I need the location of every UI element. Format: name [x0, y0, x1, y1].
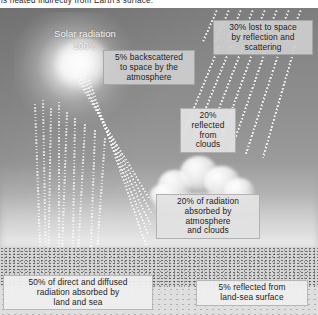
- callout-reflected-from-clouds: 20% reflected from clouds: [180, 108, 236, 153]
- callout-absorbed-by-atmosphere: 20% of radiation absorbed by atmosphere …: [156, 194, 260, 239]
- callout-line: clouds: [184, 140, 232, 150]
- callout-line: land-sea surface: [200, 293, 304, 303]
- callout-backscattered-to-space: 5% backscattered to space by the atmosph…: [103, 50, 195, 85]
- callout-absorbed-by-land-and-sea: 50% of direct and diffused radiation abs…: [3, 275, 153, 310]
- solar-radiation-title: Solar radiation: [54, 28, 116, 39]
- callout-reflected-from-land-sea-surface: 5% reflected from land-sea surface: [196, 280, 308, 306]
- caption-strip: is heated indirectly from Earth's surfac…: [0, 0, 318, 7]
- solar-radiation-label: Solar radiation 100%: [30, 28, 140, 52]
- caption-text: is heated indirectly from Earth's surfac…: [1, 0, 153, 7]
- callout-lost-to-space: 30% lost to space by reflection and scat…: [213, 20, 313, 55]
- callout-line: land and sea: [7, 298, 149, 308]
- reflected-ray-icon: [245, 46, 282, 155]
- callout-line: and clouds: [160, 226, 256, 236]
- solar-radiation-budget-figure: Solar radiation 100% 5% backscattered to…: [0, 8, 318, 315]
- reflected-ray-icon: [262, 46, 296, 158]
- callout-line: atmosphere: [107, 73, 191, 83]
- callout-line: scattering: [217, 43, 309, 53]
